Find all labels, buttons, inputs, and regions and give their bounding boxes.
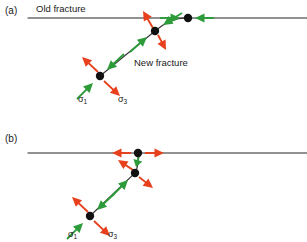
panel-b: [28, 148, 307, 239]
panel-b-upper-node: [134, 149, 142, 157]
panel-a: [28, 11, 307, 99]
panel-b-new-fracture-line: [90, 153, 138, 216]
panel-b-tension-arrow-upper-left-head: [112, 148, 122, 157]
panel-a-middle-node: [151, 27, 159, 35]
new-fracture-label: New fracture: [134, 57, 188, 68]
panel-b-sigma-1-label: σ1: [68, 229, 77, 239]
panel-a-sigma-3-label: σ3: [118, 94, 127, 104]
panel-a-compression-arrow-upper-right-head: [195, 13, 205, 22]
panel-b-tension-arrow-middle-nw-head: [118, 160, 128, 169]
panel-label-a: (a): [5, 5, 17, 16]
panel-a-tension-arrow-lower-nw-shaft: [88, 63, 98, 72]
panel-a-sigma-1-label: σ1: [78, 94, 87, 104]
panel-a-lower-node: [96, 72, 104, 80]
panel-b-tension-arrow-middle-nw-shaft: [125, 165, 133, 170]
old-fracture-label: Old fracture: [36, 3, 86, 14]
panel-b-sigma-3-label: σ3: [108, 229, 117, 239]
panel-label-b: (b): [5, 133, 17, 144]
panel-a-compression-arrow-middle-sw-shaft: [130, 42, 141, 52]
panel-a-tension-arrow-middle-se-shaft: [158, 35, 162, 43]
panel-b-lower-node: [86, 212, 94, 220]
panel-b-tension-arrow-lower-se-shaft: [94, 221, 104, 230]
panel-a-tension-arrow-lower-se-shaft: [104, 81, 114, 90]
panel-b-middle-node: [131, 169, 139, 177]
fracture-stress-figure: (a)Old fractureNew fractureσ1σ3(b)σ1σ3: [0, 0, 307, 242]
panel-a-tension-arrow-middle-nw-shaft: [147, 18, 153, 28]
panel-a-upper-node: [184, 14, 192, 22]
panel-b-tension-arrow-upper-right-head: [155, 148, 165, 157]
panel-a-compression-arrow-lower-ne-shaft: [113, 54, 124, 64]
panel-b-tension-arrow-middle-se-shaft: [139, 177, 146, 183]
panel-b-tension-arrow-lower-nw-shaft: [78, 203, 88, 212]
figure-canvas: [0, 0, 307, 242]
panel-b-compression-arrow-middle-sw-shaft: [112, 186, 122, 196]
